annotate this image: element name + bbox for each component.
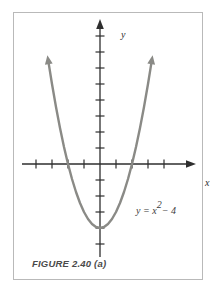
figure-frame: y x y = x2− 4 FIGURE 2.40 (a) [13,12,203,280]
figure-caption: FIGURE 2.40 (a) [32,253,192,271]
plot-area: y x y = x2− 4 [14,13,202,279]
curve-right-arrowhead [147,55,155,64]
y-axis-arrowhead [96,19,104,29]
figure-caption-text: FIGURE 2.40 (a) [32,258,106,269]
x-axis-arrowhead [186,160,196,168]
coordinate-plot-svg [14,13,202,279]
equation-annotation: y = x2− 4 [136,199,176,218]
y-axis-label: y [121,29,125,40]
x-axis-label: x [205,177,209,188]
equation-tail: − 4 [162,205,176,216]
figure-container: y x y = x2− 4 FIGURE 2.40 (a) [0,0,216,292]
equation-operator: = [143,205,150,216]
curve-left-arrowhead [45,55,53,64]
x-axis [22,160,196,169]
y-axis [96,19,105,257]
